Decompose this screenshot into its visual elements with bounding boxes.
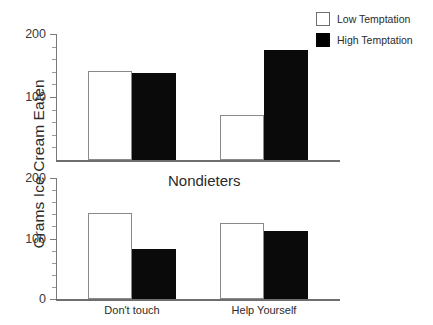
x-axis-line-top: [56, 160, 340, 162]
y-tick-200-bottom: [50, 178, 56, 179]
y-minor-tick-120-bottom: [52, 226, 57, 227]
plot-area-top: 200 100: [56, 34, 340, 164]
y-tick-label-100-top: 100: [0, 91, 46, 104]
y-minor-tick-20-top: [52, 147, 57, 148]
y-tick-100-bottom: [50, 239, 56, 240]
y-minor-tick-140-bottom: [52, 214, 57, 215]
plot-area-bottom: 200 100 0 Don't touch Help Yourself: [56, 178, 340, 298]
y-axis-line-top: [56, 34, 57, 160]
chart-figure: Grams Ice Cream Eaten Low Temptation Hig…: [0, 0, 433, 325]
bar-bottom-helpyourself-high: [264, 231, 308, 299]
bar-top-helpyourself-low: [220, 115, 264, 160]
y-tick-200-top: [50, 34, 56, 35]
y-tick-label-0-bottom: 0: [0, 293, 46, 306]
y-tick-label-100-bottom: 100: [0, 233, 46, 246]
y-minor-tick-20-bottom: [52, 287, 57, 288]
y-minor-tick-40-bottom: [52, 275, 57, 276]
y-minor-tick-180-top: [52, 47, 57, 48]
y-minor-tick-60-bottom: [52, 263, 57, 264]
bar-top-helpyourself-high: [264, 50, 308, 160]
y-minor-tick-160-bottom: [52, 202, 57, 203]
bar-bottom-donttouch-low: [88, 213, 132, 300]
bar-top-donttouch-high: [132, 73, 176, 160]
legend-label-high-temptation: High Temptation: [337, 34, 413, 46]
y-minor-tick-80-bottom: [52, 251, 57, 252]
chart-panel-top: 200 100: [0, 22, 340, 164]
legend-label-low-temptation: Low Temptation: [337, 13, 410, 25]
bar-top-donttouch-low: [88, 71, 132, 161]
y-minor-tick-120-top: [52, 84, 57, 85]
y-minor-tick-60-top: [52, 122, 57, 123]
y-minor-tick-80-top: [52, 110, 57, 111]
y-minor-tick-160-top: [52, 59, 57, 60]
y-tick-100-top: [50, 97, 56, 98]
y-axis-line-bottom: [56, 178, 57, 299]
y-tick-0-bottom: [50, 299, 56, 300]
x-tick-label-donttouch: Don't touch: [80, 304, 184, 316]
y-minor-tick-40-top: [52, 135, 57, 136]
bar-bottom-donttouch-high: [132, 249, 176, 299]
y-tick-label-200-bottom: 200: [0, 172, 46, 185]
y-minor-tick-180-bottom: [52, 190, 57, 191]
chart-panel-bottom: Nondieters 200 100 0: [0, 166, 340, 298]
x-tick-label-helpyourself: Help Yourself: [212, 304, 316, 316]
y-tick-label-200-top: 200: [0, 28, 46, 41]
x-axis-line-bottom: [56, 299, 340, 301]
bar-bottom-helpyourself-low: [220, 223, 264, 299]
y-minor-tick-140-top: [52, 72, 57, 73]
